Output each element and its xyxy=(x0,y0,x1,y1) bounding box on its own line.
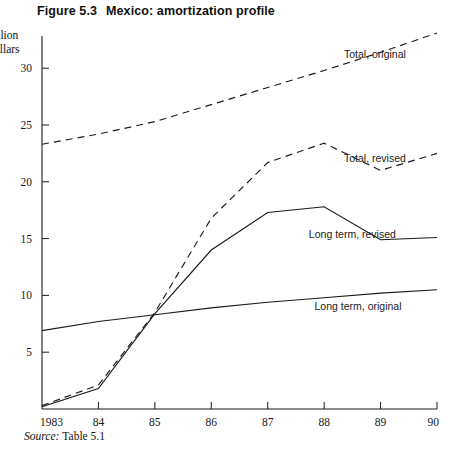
x-tick-label: 84 xyxy=(93,416,105,428)
data-series-group xyxy=(42,33,437,407)
source-label: Source: xyxy=(24,430,59,442)
figure-container: Figure 5.3Mexico: amortization profile i… xyxy=(0,0,453,450)
axes-group xyxy=(42,36,437,409)
series-label-total-revised: Total, revised xyxy=(344,152,406,164)
x-tick-label: 87 xyxy=(262,416,274,428)
y-tick-label: 10 xyxy=(21,289,33,301)
x-tick-label: 85 xyxy=(149,416,161,428)
series-label-long-term-original: Long term, original xyxy=(315,300,402,312)
series-label-long-term-revised: Long term, revised xyxy=(309,228,396,240)
x-tick-label: 90 xyxy=(428,416,440,428)
y-tick-label: 25 xyxy=(21,119,33,131)
series-line-total-revised xyxy=(42,143,437,405)
y-tick-label: 20 xyxy=(21,176,33,188)
y-tick-label: 5 xyxy=(26,346,32,358)
x-tick-label: 88 xyxy=(318,416,330,428)
x-axis-ticks: 198384858687888990 xyxy=(40,402,439,428)
chart-plot-area: 51015202530 198384858687888990 Total, or… xyxy=(0,0,453,450)
y-axis-ticks: 51015202530 xyxy=(21,62,50,358)
x-tick-label: 89 xyxy=(375,416,387,428)
x-tick-label: 86 xyxy=(206,416,218,428)
series-label-total-original: Total, original xyxy=(344,48,406,60)
series-label-group: Total, originalTotal, revisedLong term, … xyxy=(309,48,406,312)
source-note: Source:Table 5.1 xyxy=(24,430,105,442)
y-tick-label: 30 xyxy=(21,62,33,74)
x-tick-label: 1983 xyxy=(40,416,63,428)
source-value: Table 5.1 xyxy=(62,430,105,442)
y-tick-label: 15 xyxy=(21,233,33,245)
